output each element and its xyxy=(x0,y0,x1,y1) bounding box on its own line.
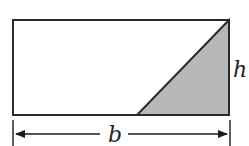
base-label: b xyxy=(108,122,122,146)
geometry-diagram: b h xyxy=(0,0,249,146)
height-label: h xyxy=(233,57,247,82)
